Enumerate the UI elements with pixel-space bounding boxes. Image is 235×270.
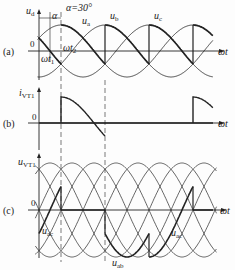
panel-c-ylabel: uVT1	[18, 157, 36, 169]
panel-a-origin: 0	[30, 40, 35, 49]
alpha-label: α	[52, 11, 57, 21]
curve-label-uab: uab	[112, 258, 124, 270]
wt2-label: ωt2	[63, 43, 76, 55]
alpha-value: α=30°	[66, 3, 92, 13]
ud-envelope	[149, 25, 193, 64]
uvt1-bold	[105, 234, 149, 258]
phase-a-label: ua	[82, 16, 90, 28]
ivt1-pulse	[61, 97, 105, 136]
ud-envelope	[105, 25, 149, 64]
wt1-label: ωt1	[41, 54, 54, 66]
panel-b-y-axis-arrow	[37, 87, 41, 92]
panel-a-y-axis-arrow	[37, 9, 41, 14]
rectifier-waveform-diagram: (a) ud 0 ωt α α=30° ωt1 ωt2 ua ub uc (b)…	[0, 0, 235, 270]
panel-a-ylabel: ud	[26, 6, 35, 18]
panel-c-xlabel: ωt	[220, 206, 230, 216]
panel-b-ylabel: iVT1	[19, 88, 35, 100]
phase-c-label: uc	[154, 11, 162, 23]
curve-label-uac-left: uac	[42, 226, 53, 238]
panel-c-y-axis-arrow	[37, 153, 41, 158]
waveform-plot	[0, 0, 235, 270]
panel-b-tag: (b)	[3, 119, 15, 129]
panel-a-tag: (a)	[3, 47, 14, 57]
panel-c-origin: 0	[31, 199, 36, 208]
curve-label-uac-right: uac	[171, 228, 182, 240]
uvt1-bold	[149, 187, 193, 258]
ud-envelope	[193, 25, 213, 36]
panel-c-tag: (c)	[3, 206, 14, 216]
panel-b-xlabel: ωt	[218, 119, 228, 129]
panel-a-xlabel: ωt	[218, 47, 228, 57]
phase-b-label: ub	[110, 11, 119, 23]
ivt1-pulse	[193, 97, 213, 123]
panel-b-origin: 0	[32, 113, 37, 122]
